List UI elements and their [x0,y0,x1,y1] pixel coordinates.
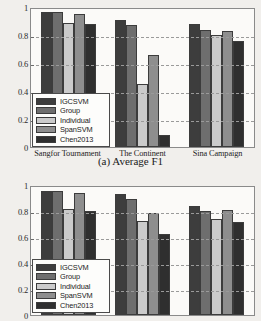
chart-lower: 00.20.40.60.81 IGCSVMGroupIndividualSpan… [0,186,261,316]
bar-group [180,187,254,315]
y-tick-label: 0.4 [2,87,28,97]
legend-entry-spansvm: SpanSVM [36,125,106,134]
bar-individual [211,35,222,147]
bar-group [105,187,179,315]
y-tick-label: 0.6 [2,233,28,243]
gridline [31,37,254,38]
bar-chen2013 [159,234,170,315]
bar-spansvm [148,213,159,315]
legend-label: IGCSVM [60,97,89,106]
bar-group [105,9,179,147]
bar-igcsvm [189,206,200,315]
legend-label: Individual [60,282,90,291]
y-tick-mark [31,65,34,66]
legend-swatch-icon [36,107,56,114]
legend-label: Group [60,272,80,281]
y-tick-label: 0 [2,143,28,153]
legend-swatch-icon [36,126,56,133]
legend-swatch-icon [36,302,56,309]
legend-label: Group [60,106,80,115]
legend-entry-chen2013: Chen2013 [36,135,106,144]
bar-individual [211,219,222,315]
legend-swatch-icon [36,264,56,271]
y-tick-label: 1 [2,3,28,13]
y-tick-label: 0.2 [2,115,28,125]
legend-swatch-icon [36,273,56,280]
y-axis-ticks-a: 00.20.40.60.81 [0,8,28,148]
bar-group [126,199,137,315]
legend-entry-group: Group [36,106,106,115]
bar-spansvm [222,31,233,147]
legend-label: Chen2013 [60,301,93,310]
legend-swatch-icon [36,136,56,143]
bar-group [200,211,211,315]
legend-entry-individual: Individual [36,282,106,291]
legend-entry-igcsvm: IGCSVM [36,263,106,272]
y-tick-label: 1 [2,181,28,191]
bar-individual [137,221,148,315]
legend-entry-spansvm: SpanSVM [36,291,106,300]
bar-group [126,25,137,147]
legend-swatch-icon [36,98,56,105]
legend-swatch-icon [36,283,56,290]
y-tick-label: 0.4 [2,259,28,269]
bar-group [200,30,211,147]
bar-spansvm [148,55,159,147]
bar-chen2013 [159,135,170,147]
legend-a: IGCSVMGroupIndividualSpanSVMChen2013 [32,93,110,147]
gridline [31,239,254,240]
bar-group [180,9,254,147]
y-tick-mark [31,37,34,38]
bar-spansvm [222,210,233,315]
y-tick-label: 0.8 [2,31,28,41]
legend-swatch-icon [36,117,56,124]
caption-a: (a) Average F1 [0,155,261,167]
gridline [31,65,254,66]
y-axis-ticks-b: 00.20.40.60.81 [0,186,28,316]
legend-entry-group: Group [36,272,106,281]
legend-label: Chen2013 [60,135,93,144]
y-tick-mark [31,213,34,214]
legend-entry-individual: Individual [36,116,106,125]
legend-label: Individual [60,116,90,125]
y-tick-mark [31,239,34,240]
legend-label: SpanSVM [60,291,93,300]
y-tick-label: 0.8 [2,207,28,217]
chart-average-f1: 00.20.40.60.81 Sangfor TournamentThe Con… [0,8,261,148]
legend-b: IGCSVMGroupIndividualSpanSVMChen2013 [32,259,110,313]
bar-igcsvm [189,24,200,147]
y-tick-label: 0.6 [2,59,28,69]
y-tick-label: 0 [2,311,28,321]
gridline [31,213,254,214]
legend-entry-igcsvm: IGCSVM [36,97,106,106]
bar-igcsvm [115,20,126,147]
legend-label: IGCSVM [60,263,89,272]
y-tick-label: 0.2 [2,285,28,295]
bar-chen2013 [233,222,244,315]
legend-entry-chen2013: Chen2013 [36,301,106,310]
legend-swatch-icon [36,292,56,299]
legend-label: SpanSVM [60,125,93,134]
